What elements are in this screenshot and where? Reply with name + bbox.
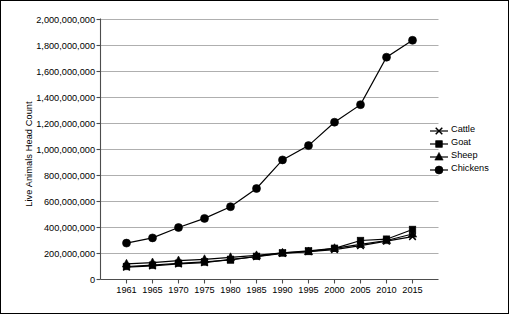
data-point-marker-circle — [175, 224, 183, 232]
circle-marker — [227, 203, 235, 211]
data-point-marker-circle — [357, 101, 365, 109]
data-point-marker-circle — [123, 239, 131, 247]
data-point-marker-circle — [331, 118, 339, 126]
data-point-marker-circle — [383, 53, 391, 61]
triangle-marker — [435, 152, 443, 160]
data-point-marker-circle — [227, 203, 235, 211]
circle-marker — [279, 156, 287, 164]
line-chart: Live Animals Head Count 0200,000,000400,… — [0, 0, 509, 314]
data-point-marker-square — [436, 141, 443, 148]
square-marker — [436, 141, 443, 148]
legend-label: Goat — [451, 137, 471, 147]
legend-key-circle-icon — [429, 162, 449, 174]
legend-label: Chickens — [451, 163, 489, 173]
series-line — [127, 234, 413, 264]
data-point-marker-circle — [253, 185, 261, 193]
circle-marker — [123, 239, 131, 247]
legend-key-x-icon — [429, 123, 449, 135]
circle-marker — [409, 36, 417, 44]
circle-marker — [175, 224, 183, 232]
data-point-marker-circle — [305, 142, 313, 150]
circle-marker — [253, 185, 261, 193]
circle-marker — [331, 118, 339, 126]
data-point-marker-circle — [279, 156, 287, 164]
legend-item-cattle[interactable]: Cattle — [429, 123, 489, 135]
series-sheep — [122, 229, 416, 267]
circle-marker — [149, 234, 157, 242]
series-cattle — [123, 233, 416, 270]
circle-marker — [357, 101, 365, 109]
circle-marker — [201, 214, 209, 222]
data-point-marker-circle — [435, 166, 443, 174]
circle-marker — [435, 166, 443, 174]
circle-marker — [305, 142, 313, 150]
x-axis-ticks — [127, 280, 413, 284]
legend-item-chickens[interactable]: Chickens — [429, 162, 489, 174]
series-line — [127, 237, 413, 268]
circle-marker — [383, 53, 391, 61]
data-point-marker-triangle — [435, 152, 443, 160]
series-chickens — [123, 36, 417, 247]
data-point-marker-circle — [409, 36, 417, 44]
y-axis-ticks — [97, 20, 101, 280]
legend-key-triangle-icon — [429, 149, 449, 161]
chart-legend: CattleGoatSheepChickens — [429, 123, 489, 174]
series-line — [127, 40, 413, 243]
legend-item-goat[interactable]: Goat — [429, 136, 489, 148]
legend-label: Sheep — [451, 150, 478, 160]
legend-key-square-icon — [429, 136, 449, 148]
legend-item-sheep[interactable]: Sheep — [429, 149, 489, 161]
data-point-marker-circle — [149, 234, 157, 242]
legend-label: Cattle — [451, 124, 475, 134]
data-point-marker-circle — [201, 214, 209, 222]
